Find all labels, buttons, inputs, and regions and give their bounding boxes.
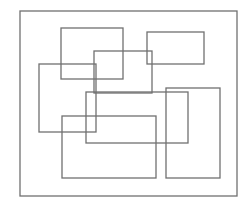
rect-e xyxy=(166,88,220,178)
rectangles-group xyxy=(39,28,220,178)
rect-g xyxy=(62,116,156,178)
rect-a xyxy=(61,28,123,79)
rect-f xyxy=(86,92,188,143)
rect-d xyxy=(39,64,96,132)
rect-b xyxy=(147,32,204,64)
overlapping-rectangles-diagram xyxy=(0,0,252,210)
